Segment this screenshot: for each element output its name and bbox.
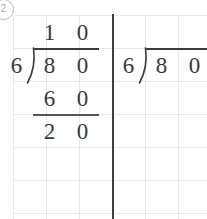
remainder-digit: 2 bbox=[33, 115, 66, 148]
remainder-digit: 0 bbox=[66, 115, 99, 148]
long-division-worksheet: 2 1 0 6 8 0 6 0 2 0 bbox=[0, 0, 207, 219]
divisor-digit: 6 bbox=[112, 49, 145, 82]
grid-line-vertical bbox=[13, 15, 14, 219]
vertical-divider-icon bbox=[112, 14, 114, 219]
dividend-digit: 0 bbox=[178, 49, 207, 82]
quotient-digit: 1 bbox=[33, 16, 66, 49]
dividend-digit: 8 bbox=[33, 49, 66, 82]
grid-line-horizontal bbox=[13, 180, 207, 181]
divisor-digit: 6 bbox=[0, 49, 33, 82]
dividend-digit: 0 bbox=[66, 49, 99, 82]
partial-product-digit: 0 bbox=[66, 82, 99, 115]
quotient-digit: 0 bbox=[66, 16, 99, 49]
partial-product-digit: 6 bbox=[33, 82, 66, 115]
grid-line-vertical bbox=[145, 15, 146, 219]
grid-line-vertical bbox=[178, 15, 179, 219]
circled-number-icon: 2 bbox=[0, 0, 14, 20]
dividend-digit: 8 bbox=[145, 49, 178, 82]
grid-line-horizontal bbox=[13, 213, 207, 214]
